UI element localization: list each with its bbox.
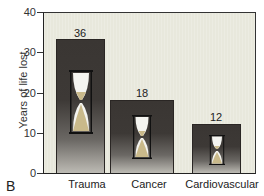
- hourglass-icon: [132, 115, 152, 159]
- y-tick-label-30: 30: [12, 46, 36, 58]
- bar-value-trauma: 36: [60, 27, 100, 39]
- bar-trauma: [56, 39, 105, 173]
- hourglass-icon: [209, 135, 225, 165]
- plot-area: 36 18: [43, 12, 256, 174]
- hourglass-icon: [69, 70, 93, 134]
- bar-cancer: [110, 100, 174, 173]
- y-tick-label-0: 0: [12, 167, 36, 179]
- x-label-cancer: Cancer: [119, 178, 179, 190]
- bar-value-cancer: 18: [122, 87, 162, 99]
- x-label-cardiovascular: Cardiovascular: [180, 178, 264, 190]
- bar-value-cardiovascular: 12: [196, 111, 236, 123]
- panel-label: B: [6, 178, 15, 194]
- y-tick-label-10: 10: [12, 127, 36, 139]
- y-tick-label-40: 40: [12, 6, 36, 18]
- bar-cardiovascular: [192, 124, 241, 173]
- x-label-trauma: Trauma: [62, 178, 112, 190]
- y-tick-label-20: 20: [12, 87, 36, 99]
